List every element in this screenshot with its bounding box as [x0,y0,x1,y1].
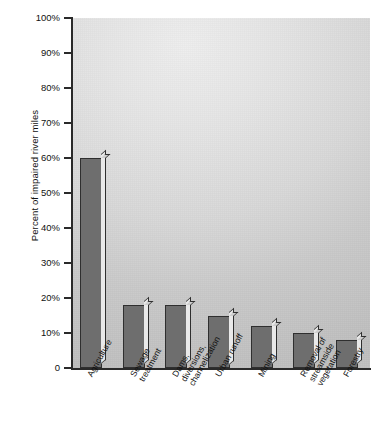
y-tick-label: 10% [0,328,60,338]
bar-chart-figure: Percent of impaired river miles 100%90%8… [0,0,380,447]
y-tick-mark [64,52,72,53]
y-tick-label: 70% [0,118,60,128]
y-tick-mark [64,227,72,228]
y-tick-label: 60% [0,153,60,163]
y-tick-mark [64,332,72,333]
y-tick-label: 20% [0,293,60,303]
y-tick-label: 30% [0,258,60,268]
bar-front-face [80,158,102,368]
y-axis-title: Percent of impaired river miles [29,86,40,266]
y-tick-label: 0 [0,363,60,373]
bar [80,154,102,368]
y-tick-mark [64,157,72,158]
y-tick-mark [64,192,72,193]
bar-side-face [101,150,106,364]
y-tick-mark [64,87,72,88]
y-tick-label: 80% [0,83,60,93]
y-tick-mark [64,122,72,123]
y-tick-label: 90% [0,48,60,58]
y-tick-mark [64,262,72,263]
y-tick-label: 50% [0,188,60,198]
y-tick-label: 100% [0,13,60,23]
y-tick-mark [64,297,72,298]
y-tick-mark [64,367,72,368]
y-tick-label: 40% [0,223,60,233]
y-tick-mark [64,17,72,18]
